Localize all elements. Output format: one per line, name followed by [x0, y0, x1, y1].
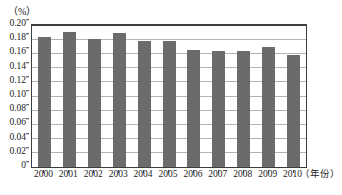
y-axis-tick-mark	[26, 104, 29, 105]
x-axis-tick-mark	[143, 170, 144, 173]
x-axis-tick-mark	[118, 170, 119, 173]
x-axis-tick-mark	[293, 170, 294, 173]
y-axis-tick-label: 0	[21, 161, 26, 171]
x-axis-tick-mark	[218, 170, 219, 173]
y-axis-tick-mark	[26, 133, 29, 134]
bar	[287, 55, 300, 167]
bar	[38, 37, 51, 167]
y-axis-tick-mark	[26, 19, 29, 20]
bar	[63, 32, 76, 167]
bar	[163, 41, 176, 167]
bar	[113, 33, 126, 167]
y-axis-tick-mark	[26, 119, 29, 120]
bar	[138, 41, 151, 167]
x-axis-tick-mark	[243, 170, 244, 173]
plot-area	[31, 24, 307, 168]
y-axis-tick-mark	[26, 76, 29, 77]
y-axis-tick-mark	[26, 147, 29, 148]
y-axis-tick-labels: 00.020.040.060.080.100.120.140.160.180.2…	[0, 24, 28, 168]
y-axis-tick-mark	[26, 48, 29, 49]
y-axis-tick-mark	[26, 90, 29, 91]
x-axis-tick-mark	[43, 170, 44, 173]
x-axis-tick-mark	[68, 170, 69, 173]
bar	[212, 51, 225, 167]
y-axis-tick-label: 0.14	[9, 62, 26, 72]
y-axis-tick-label: 0.16	[9, 48, 26, 58]
bar	[187, 50, 200, 167]
y-axis-tick-label: 0.18	[9, 33, 26, 43]
x-axis-title: （年份）	[300, 170, 340, 180]
y-axis-tick-label: 0.04	[9, 133, 26, 143]
bar-chart: （%） 00.020.040.060.080.100.120.140.160.1…	[0, 0, 342, 195]
y-axis-tick-mark	[26, 33, 29, 34]
y-axis-tick-label: 0.20	[9, 19, 26, 29]
y-axis-tick-label: 0.08	[9, 104, 26, 114]
y-axis-unit-label: （%）	[8, 3, 36, 18]
x-axis-tick-mark	[93, 170, 94, 173]
y-axis-tick-label: 0.10	[9, 90, 26, 100]
bar	[88, 39, 101, 167]
bars-layer	[32, 25, 306, 167]
y-axis-tick-mark	[26, 62, 29, 63]
y-axis-tick-mark	[26, 161, 29, 162]
x-axis-tick-mark	[168, 170, 169, 173]
x-axis-tick-mark	[193, 170, 194, 173]
y-axis-tick-label: 0.12	[9, 76, 26, 86]
y-axis-tick-label: 0.02	[9, 147, 26, 157]
x-axis-tick-labels: 2000200120022003200420052006200720082009…	[31, 170, 307, 186]
bar	[237, 51, 250, 167]
y-axis-tick-label: 0.06	[9, 119, 26, 129]
bar	[262, 47, 275, 167]
x-axis-tick-mark	[268, 170, 269, 173]
